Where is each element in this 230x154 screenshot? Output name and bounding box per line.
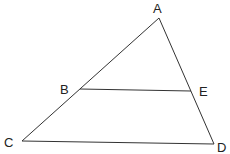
triangle-diagram: A B C D E (0, 0, 230, 154)
label-A: A (153, 1, 162, 16)
label-E: E (199, 84, 208, 99)
segment-BE (80, 89, 191, 91)
segment-AC (22, 18, 159, 141)
label-D: D (217, 140, 226, 154)
segment-AD (159, 18, 214, 144)
label-B: B (60, 82, 69, 97)
label-C: C (4, 135, 13, 150)
segment-CD (22, 141, 214, 144)
